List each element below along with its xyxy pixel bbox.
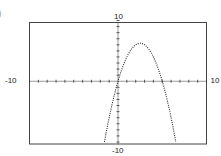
graph-window: [0, 0, 221, 156]
y-max-label: 10: [114, 13, 123, 21]
x-min-label: -10: [5, 77, 17, 85]
parabola-curve: [104, 43, 175, 142]
y-min-label: -10: [112, 147, 124, 155]
axes: [30, 21, 207, 145]
x-max-label: 10: [211, 77, 220, 85]
